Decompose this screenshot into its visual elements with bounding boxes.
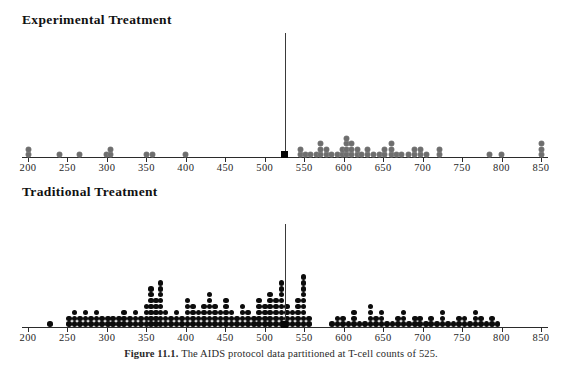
data-dot — [138, 321, 144, 327]
x-axis-tick-label: 200 — [11, 162, 45, 173]
x-axis-tick-label: 300 — [90, 332, 124, 343]
x-axis-tick-label: 750 — [445, 332, 479, 343]
data-dot — [340, 321, 346, 327]
x-axis-tick — [225, 158, 226, 162]
data-dot — [163, 310, 169, 316]
x-axis-tick-label: 400 — [169, 162, 203, 173]
data-dot — [368, 304, 374, 310]
partition-marker-525 — [281, 151, 288, 158]
data-dot — [389, 152, 394, 157]
data-dot — [138, 316, 144, 322]
x-axis-tick-label: 200 — [11, 332, 45, 343]
x-axis-tick — [344, 158, 345, 162]
data-dot — [295, 316, 301, 322]
data-dot — [174, 310, 180, 316]
data-dot — [273, 298, 279, 304]
data-dot — [306, 321, 312, 327]
data-dot — [66, 316, 72, 322]
data-dot — [434, 321, 440, 327]
data-dot — [158, 292, 164, 298]
data-dot — [279, 298, 285, 304]
data-dot — [168, 321, 174, 327]
x-axis-tick-label: 250 — [50, 332, 84, 343]
data-dot — [467, 321, 473, 327]
data-dot — [539, 152, 544, 157]
data-dot — [355, 147, 360, 152]
data-dot — [298, 147, 303, 152]
data-dot — [223, 298, 229, 304]
x-axis-tick — [541, 158, 542, 162]
x-axis-tick — [107, 158, 108, 162]
data-dot — [273, 310, 279, 316]
data-dot — [279, 280, 285, 286]
data-dot — [401, 310, 407, 316]
dot-plot-traditional: 2002503003504004505005506006507007508008… — [0, 180, 562, 350]
data-dot — [437, 147, 442, 152]
data-dot — [190, 316, 196, 322]
data-dot — [190, 310, 196, 316]
x-axis-tick — [146, 158, 147, 162]
data-dot — [201, 316, 207, 322]
figure-caption: Figure 11.1. The AIDS protocol data part… — [0, 348, 562, 359]
data-dot — [340, 316, 346, 322]
x-axis-tick — [344, 328, 345, 332]
x-axis-tick-label: 600 — [327, 332, 361, 343]
data-dot — [329, 321, 335, 327]
data-dot — [47, 321, 53, 327]
x-axis-tick — [423, 158, 424, 162]
data-dot — [273, 321, 279, 327]
x-axis-tick — [265, 158, 266, 162]
x-axis-tick-label: 700 — [406, 162, 440, 173]
data-dot — [324, 147, 329, 152]
data-dot — [301, 298, 307, 304]
data-dot — [301, 310, 307, 316]
data-dot — [121, 310, 127, 316]
x-axis-tick — [107, 328, 108, 332]
x-axis-tick-label: 350 — [129, 332, 163, 343]
data-dot — [362, 321, 368, 327]
data-dot — [273, 316, 279, 322]
data-dot — [301, 304, 307, 310]
data-dot — [144, 152, 149, 157]
data-dot — [318, 141, 323, 146]
data-dot — [301, 280, 307, 286]
data-dot — [473, 310, 479, 316]
figure-caption-lead: Figure 11.1. — [124, 348, 178, 359]
data-dot — [190, 321, 196, 327]
data-dot — [418, 152, 423, 157]
x-axis-tick-label: 300 — [90, 162, 124, 173]
data-dot — [256, 298, 262, 304]
x-axis-tick-label: 250 — [50, 162, 84, 173]
x-axis-tick — [28, 158, 29, 162]
x-axis-tick — [383, 328, 384, 332]
data-dot — [389, 147, 394, 152]
data-dot — [267, 292, 273, 298]
data-dot — [478, 321, 484, 327]
x-axis-tick — [146, 328, 147, 332]
data-dot — [273, 304, 279, 310]
partition-line-525 — [285, 224, 286, 327]
data-dot — [207, 292, 213, 298]
data-dot — [428, 316, 434, 322]
data-dot — [417, 316, 423, 322]
x-axis-tick — [462, 328, 463, 332]
data-dot — [66, 321, 72, 327]
data-dot — [94, 310, 100, 316]
data-dot — [412, 147, 417, 152]
x-axis-tick — [383, 158, 384, 162]
x-axis-tick-label: 500 — [248, 162, 282, 173]
data-dot — [83, 310, 89, 316]
data-dot — [295, 298, 301, 304]
data-dot — [539, 141, 544, 146]
data-dot — [127, 316, 133, 322]
x-axis-tick — [304, 328, 305, 332]
data-dot — [379, 310, 385, 316]
data-dot — [324, 152, 329, 157]
data-dot — [318, 152, 323, 157]
data-dot — [351, 316, 357, 322]
data-dot — [295, 304, 301, 310]
data-dot — [418, 147, 423, 152]
data-dot — [158, 280, 164, 286]
x-axis-tick — [502, 158, 503, 162]
data-dot — [344, 136, 349, 141]
